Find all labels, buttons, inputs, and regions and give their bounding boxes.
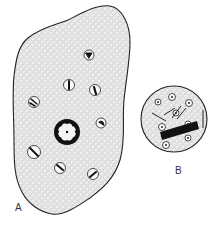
- panel-label-b: B: [175, 165, 182, 176]
- figure-illustration: [0, 0, 209, 230]
- panel-label-a: A: [15, 202, 22, 213]
- central-nucleus-icon: [54, 119, 80, 145]
- cell-a: [13, 6, 130, 215]
- cell-b: [141, 86, 207, 152]
